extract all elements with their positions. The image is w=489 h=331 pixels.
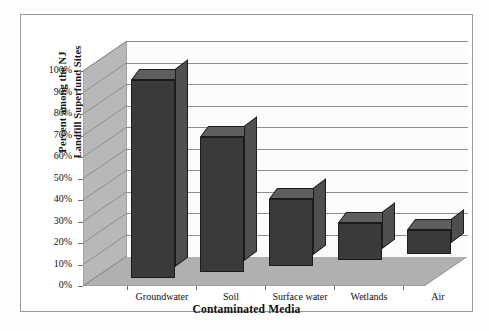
ytick-label-20: 20% (32, 236, 72, 247)
ytick-label-60: 60% (32, 150, 72, 161)
x-axis-title: Contaminated Media (21, 303, 472, 315)
ytick-label-30: 30% (32, 215, 72, 226)
category-label-air: Air (388, 291, 488, 302)
xtick-1 (196, 286, 197, 290)
ytick-label-90: 90% (32, 86, 72, 97)
ytick-label-50: 50% (32, 172, 72, 183)
ytick-label-10: 10% (32, 258, 72, 269)
bar-soil-side (244, 116, 257, 261)
bar-wetlands-front (338, 223, 382, 260)
plot-area: 100% 90% 80% 70% 60% 50% 40% 30% 20% 10%… (83, 41, 468, 286)
ytick-80 (78, 114, 83, 115)
bar-surface-water-front (269, 199, 313, 266)
ytick-label-0: 0% (32, 279, 72, 290)
ytick-label-100: 100% (32, 64, 72, 75)
ytick-10 (78, 265, 83, 266)
ytick-90 (78, 93, 83, 94)
bar-soil-front (200, 137, 244, 272)
ytick-100 (78, 71, 83, 72)
ytick-label-40: 40% (32, 193, 72, 204)
ytick-20 (78, 243, 83, 244)
xtick-2 (265, 286, 266, 290)
figure-frame: Percent among the NJ Landfill Superfund … (20, 14, 473, 312)
bar-groundwater-front (131, 80, 175, 278)
ytick-70 (78, 136, 83, 137)
xtick-0 (127, 286, 128, 290)
ytick-30 (78, 222, 83, 223)
bar-air[interactable] (407, 230, 451, 254)
bar-groundwater-side (175, 59, 188, 267)
y-axis-title-line1: Percent among the NJ (55, 17, 70, 187)
xtick-4 (403, 286, 404, 290)
ytick-40 (78, 200, 83, 201)
ytick-label-80: 80% (32, 107, 72, 118)
ytick-50 (78, 179, 83, 180)
ytick-60 (78, 157, 83, 158)
figure-page: Percent among the NJ Landfill Superfund … (0, 0, 489, 331)
xtick-3 (334, 286, 335, 290)
ytick-0 (78, 286, 83, 287)
bar-surface-water[interactable] (269, 199, 313, 266)
bar-air-front (407, 230, 451, 254)
bar-wetlands[interactable] (338, 223, 382, 260)
gridline-100 (127, 41, 468, 42)
bar-groundwater[interactable] (131, 80, 175, 278)
ytick-label-70: 70% (32, 129, 72, 140)
bar-soil[interactable] (200, 137, 244, 272)
gridline-90 (127, 63, 468, 64)
bar-surface-water-side (313, 178, 326, 255)
